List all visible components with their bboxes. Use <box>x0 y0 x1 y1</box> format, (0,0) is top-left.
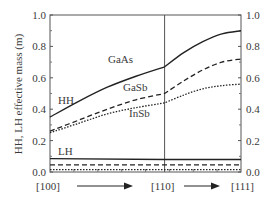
arrow-110-to-111 <box>184 183 220 190</box>
y-axis-label: HH, LH effective mass (m) <box>12 33 25 154</box>
curve-gaas-hh <box>50 31 241 117</box>
effective-mass-chart: 0.00.00.20.20.40.40.60.60.80.81.01.0 HH,… <box>0 0 272 201</box>
y-tick-label: 0.8 <box>32 40 46 52</box>
right-y-tick-label: 0.4 <box>246 103 260 115</box>
y-tick-label: 1.0 <box>32 9 46 21</box>
y-tick-label: 0.2 <box>32 135 46 147</box>
y-tick-label: 0.4 <box>32 103 46 115</box>
right-y-tick-label: 0.2 <box>246 135 260 147</box>
label-insb: InSb <box>129 107 150 119</box>
label-hh: HH <box>58 94 74 106</box>
label-gasb: GaSb <box>123 81 148 93</box>
label-gaas: GaAs <box>108 53 133 65</box>
curve-gasb-hh <box>50 59 241 131</box>
right-y-tick-label: 0.6 <box>246 72 260 84</box>
curves <box>50 31 241 170</box>
right-y-tick-label: 1.0 <box>246 9 260 21</box>
curve-gaas-lh <box>50 159 241 160</box>
label-lh: LH <box>58 145 73 157</box>
x-label-100: [100] <box>36 180 60 192</box>
y-tick-label: 0.6 <box>32 72 46 84</box>
right-y-tick-label: 0.0 <box>246 166 260 178</box>
arrow-100-to-110 <box>77 183 133 190</box>
y-tick-label: 0.0 <box>32 166 46 178</box>
right-y-tick-label: 0.8 <box>246 40 260 52</box>
plot-frame <box>50 15 241 172</box>
x-label-111: [111] <box>231 180 254 192</box>
x-label-110: [110] <box>151 180 174 192</box>
